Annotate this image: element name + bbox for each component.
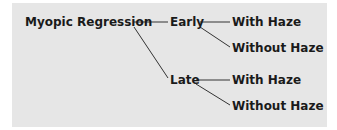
connector-early-without-haze [200, 27, 230, 47]
node-early: Early [170, 15, 204, 29]
node-late-with-haze: With Haze [232, 73, 301, 87]
node-early-without-haze: Without Haze [232, 41, 324, 55]
node-late: Late [170, 73, 200, 87]
node-early-with-haze: With Haze [232, 15, 301, 29]
node-root-myopic-regression: Myopic Regression [25, 15, 152, 29]
node-late-without-haze: Without Haze [232, 99, 324, 113]
connector-late-without-haze [196, 84, 230, 105]
connector-root-late [134, 27, 168, 78]
